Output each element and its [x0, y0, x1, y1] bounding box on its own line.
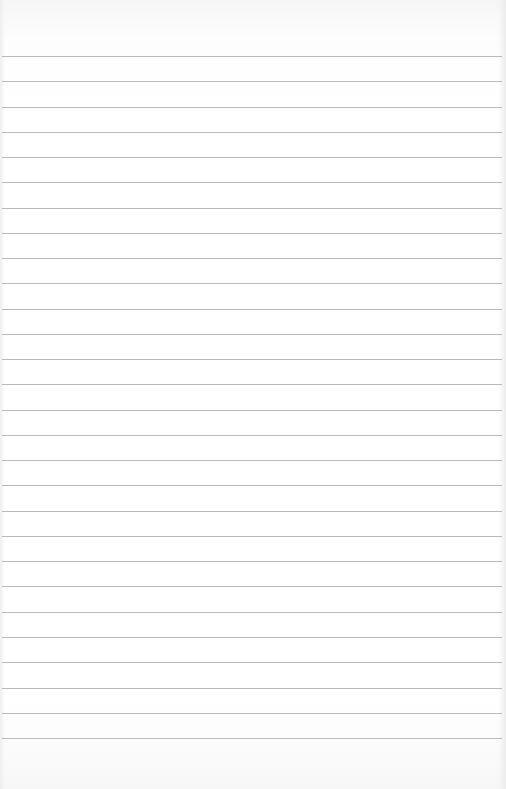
ruled-line: [2, 460, 502, 461]
ruled-line: [2, 359, 502, 360]
right-edge-shadow: [498, 0, 506, 789]
ruled-line: [2, 309, 502, 310]
ruled-line: [2, 536, 502, 537]
ruled-line: [2, 410, 502, 411]
ruled-line: [2, 561, 502, 562]
ruled-line: [2, 233, 502, 234]
ruled-line: [2, 586, 502, 587]
ruled-line: [2, 56, 502, 57]
ruled-line: [2, 384, 502, 385]
ruled-line: [2, 662, 502, 663]
ruled-line: [2, 688, 502, 689]
ruled-line: [2, 107, 502, 108]
left-edge-shadow: [0, 0, 5, 789]
ruled-line: [2, 81, 502, 82]
ruled-line: [2, 208, 502, 209]
ruled-line: [2, 258, 502, 259]
ruled-line: [2, 283, 502, 284]
ruled-line: [2, 157, 502, 158]
ruled-line: [2, 132, 502, 133]
ruled-line: [2, 511, 502, 512]
ruled-line: [2, 738, 502, 739]
ruled-line: [2, 637, 502, 638]
ruled-line: [2, 182, 502, 183]
ruled-line: [2, 713, 502, 714]
ruled-line: [2, 334, 502, 335]
lined-paper-sheet: [0, 0, 506, 789]
ruled-line: [2, 612, 502, 613]
ruled-line: [2, 435, 502, 436]
ruled-line: [2, 485, 502, 486]
